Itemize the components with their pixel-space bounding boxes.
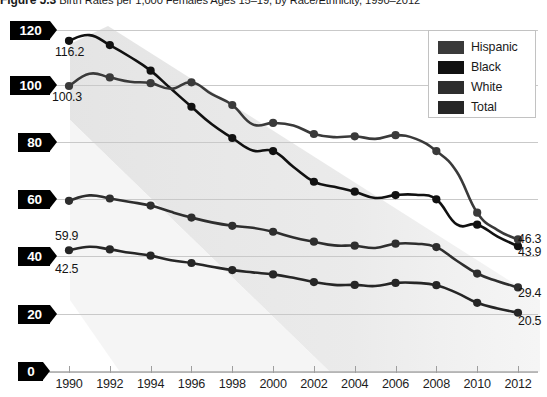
x-tick-1996 [191,366,192,373]
data-point-hispanic-1998 [228,101,236,109]
value-label-start-hispanic: 100.3 [52,90,82,104]
data-point-black-2008 [432,195,440,203]
legend-swatch-white [438,81,464,94]
legend-label-total: Total [471,100,497,114]
data-point-total-1992 [106,245,114,253]
data-point-white-2004 [351,242,359,250]
legend-label-white: White [471,80,502,94]
data-point-hispanic-2010 [473,209,481,217]
x-tick-1998 [232,366,233,373]
x-axis-label-2002: 2002 [291,377,337,391]
x-tick-1992 [110,366,111,373]
data-point-black-1998 [228,134,236,142]
data-point-black-2010 [473,221,481,229]
series-total [65,245,522,317]
value-label-end-white: 29.4 [518,286,541,300]
legend-item-white[interactable]: White [438,77,535,97]
x-axis-label-2004: 2004 [332,377,378,391]
x-tick-1990 [69,366,70,373]
data-point-hispanic-2000 [269,119,277,127]
data-point-white-2000 [269,228,277,236]
data-point-black-1992 [106,41,114,49]
series-line-white [69,195,518,287]
x-axis-label-1992: 1992 [87,377,133,391]
data-point-hispanic-1996 [187,78,195,86]
value-label-end-total: 20.5 [518,314,541,328]
data-point-total-2008 [432,281,440,289]
value-label-start-total: 42.5 [55,262,78,276]
data-point-black-2004 [351,188,359,196]
chart-legend: HispanicBlackWhiteTotal [428,30,536,118]
x-axis-label-1998: 1998 [209,377,255,391]
data-point-white-2008 [432,243,440,251]
legend-swatch-black [438,61,464,74]
data-point-white-2002 [310,238,318,246]
x-axis-label-2012: 2012 [495,377,541,391]
x-axis-label-1996: 1996 [168,377,214,391]
data-point-white-1994 [147,202,155,210]
x-axis-line [49,372,538,373]
x-axis-label-2010: 2010 [454,377,500,391]
legend-swatch-hispanic [438,41,464,54]
data-point-white-1992 [106,194,114,202]
x-tick-2006 [396,366,397,373]
x-tick-2002 [314,366,315,373]
data-point-total-1998 [228,266,236,274]
data-point-total-1994 [147,252,155,260]
value-label-end-hispanic: 46.3 [518,232,541,246]
legend-label-black: Black [471,60,501,74]
value-label-start-white: 59.9 [55,229,78,243]
x-tick-2008 [436,366,437,373]
data-point-total-2004 [351,281,359,289]
data-point-total-1996 [187,259,195,267]
data-point-white-1990 [65,197,73,205]
data-point-black-2000 [269,147,277,155]
data-point-total-2010 [473,299,481,307]
x-tick-2010 [477,366,478,373]
data-point-total-2006 [391,279,399,287]
x-axis-label-2006: 2006 [373,377,419,391]
data-point-black-1996 [187,103,195,111]
value-label-end-black: 43.9 [518,245,541,259]
data-point-hispanic-1990 [65,82,73,90]
data-point-hispanic-2004 [351,132,359,140]
x-tick-1994 [151,366,152,373]
x-axis-label-2008: 2008 [413,377,459,391]
x-tick-2012 [518,366,519,373]
data-point-black-2006 [391,191,399,199]
data-point-total-1990 [65,246,73,254]
data-point-hispanic-2006 [391,131,399,139]
legend-item-hispanic[interactable]: Hispanic [438,37,535,57]
x-axis-label-1994: 1994 [128,377,174,391]
x-axis-label-1990: 1990 [46,377,92,391]
data-point-total-2000 [269,270,277,278]
data-point-white-1998 [228,222,236,230]
data-point-black-1994 [147,67,155,75]
x-tick-2000 [273,366,274,373]
legend-swatch-total [438,101,464,114]
data-point-hispanic-2008 [432,147,440,155]
data-point-hispanic-1992 [106,73,114,81]
data-point-white-2010 [473,269,481,277]
legend-label-hispanic: Hispanic [471,40,518,54]
data-point-hispanic-1994 [147,79,155,87]
x-axis-label-2000: 2000 [250,377,296,391]
data-point-total-2002 [310,278,318,286]
legend-item-total[interactable]: Total [438,97,535,117]
data-point-black-1990 [65,37,73,45]
legend-item-black[interactable]: Black [438,57,535,77]
data-point-black-2002 [310,178,318,186]
data-point-white-2006 [391,240,399,248]
chart-canvas: 120 100 80 60 40 20 0 199019921994199619… [0,0,547,397]
data-point-white-1996 [187,213,195,221]
x-tick-2004 [355,366,356,373]
value-label-start-black: 116.2 [55,45,84,59]
data-point-hispanic-2002 [310,130,318,138]
